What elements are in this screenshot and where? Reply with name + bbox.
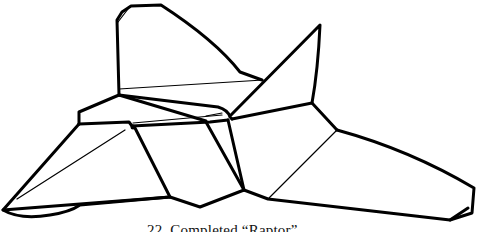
tail-fin: [117, 5, 263, 95]
fuselage-top: [79, 95, 232, 130]
fuselage-center: [135, 103, 337, 207]
right-wing: [244, 130, 474, 220]
figure-caption: 22. Completed “Raptor”: [147, 222, 298, 232]
left-wing: [3, 124, 170, 217]
right-fin: [231, 25, 320, 115]
raptor-origami-diagram: [0, 0, 478, 232]
